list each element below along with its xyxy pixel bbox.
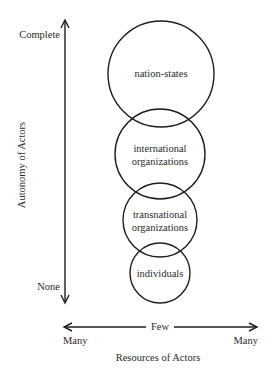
circle-label-nation-states: nation-states (134, 68, 187, 79)
circle-international-organizations (115, 109, 205, 199)
circle-label-international-1: international (133, 143, 186, 154)
circle-label-transnational-1: transnational (133, 209, 187, 220)
x-axis-title: Resources of Actors (116, 352, 201, 363)
x-axis-left-label: Many (63, 335, 88, 346)
autonomy-resources-diagram: Complete None Autonomy of Actors nation-… (0, 0, 270, 373)
actor-circles: nation-states international organization… (108, 21, 214, 303)
circle-label-transnational-2: organizations (132, 222, 188, 233)
y-axis-bottom-label: None (37, 281, 60, 292)
y-axis-top-label: Complete (19, 29, 60, 40)
y-axis: Complete None Autonomy of Actors (16, 20, 69, 303)
x-axis: Few Many Many Resources of Actors (63, 321, 259, 363)
x-axis-right-label: Many (234, 335, 259, 346)
circle-label-individuals: individuals (137, 268, 184, 279)
circle-transnational-organizations (123, 183, 197, 257)
x-axis-center-label: Few (151, 321, 170, 332)
circle-label-international-2: organizations (132, 156, 188, 167)
y-axis-title: Autonomy of Actors (16, 122, 27, 208)
